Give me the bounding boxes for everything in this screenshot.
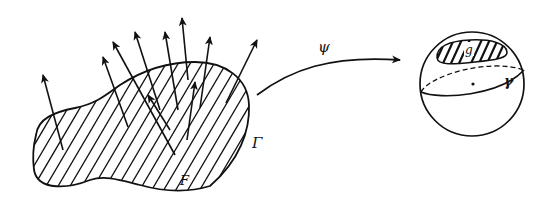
map-arrow: [257, 59, 400, 95]
map-label: ψ: [318, 38, 330, 56]
region-label: F: [179, 173, 190, 188]
boundary-label: Γ: [251, 134, 263, 152]
image-curve-label: γ: [504, 73, 514, 89]
image-region-label: g: [465, 43, 473, 57]
gauss-map-diagram: Γ F ψ g γ: [0, 0, 556, 210]
